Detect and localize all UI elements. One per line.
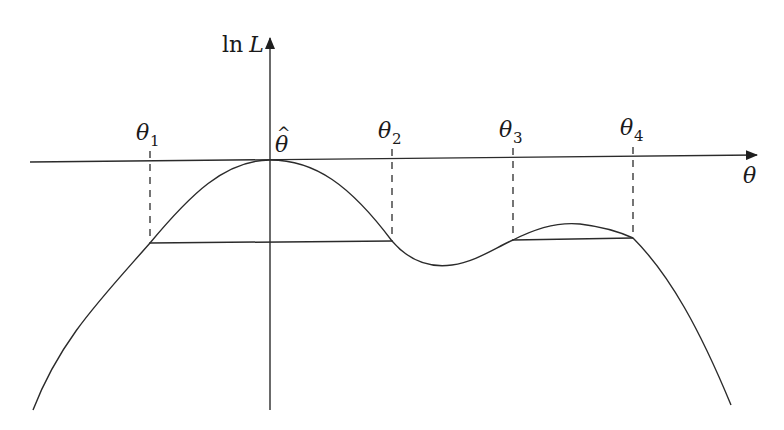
svg-text:θ: θ — [620, 115, 633, 140]
dashed-guides — [150, 147, 633, 243]
chord-theta1-theta2 — [150, 241, 392, 243]
theta-3-label: θ 3 — [499, 117, 523, 147]
theta-2-label: θ 2 — [378, 118, 402, 148]
svg-text:1: 1 — [150, 132, 160, 150]
svg-text:θ: θ — [499, 117, 512, 142]
svg-text:θ: θ — [378, 118, 391, 143]
lnL-label: lnL — [222, 32, 264, 57]
theta-axis — [30, 155, 757, 162]
chord-theta3-theta4 — [513, 238, 633, 240]
theta-hat-label: θ ^ — [275, 124, 290, 157]
svg-text:2: 2 — [392, 130, 402, 148]
theta-1-label: θ 1 — [136, 120, 160, 150]
svg-text:4: 4 — [634, 127, 644, 145]
likelihood-diagram: lnL θ θ ^ θ 1 θ 2 θ 3 θ 4 — [0, 0, 784, 430]
svg-text:^: ^ — [277, 124, 290, 143]
likelihood-curve — [33, 160, 731, 410]
svg-text:3: 3 — [513, 129, 523, 147]
theta-axis-label: θ — [743, 163, 756, 188]
svg-text:θ: θ — [136, 120, 149, 145]
theta-4-label: θ 4 — [620, 115, 644, 145]
